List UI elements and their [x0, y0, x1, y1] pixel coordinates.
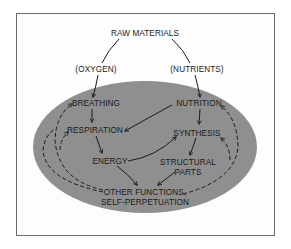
node-other-functions-line2: SELF-PERPETUATION [101, 198, 189, 207]
node-breathing: BREATHING [72, 99, 120, 108]
node-raw-materials: RAW MATERIALS [111, 29, 179, 38]
node-oxygen: (OXYGEN) [75, 65, 116, 74]
node-structural-line2: PARTS [174, 168, 201, 177]
node-nutrition: NUTRITION [176, 99, 221, 108]
node-other-functions-line1: OTHER FUNCTIONS, [104, 188, 187, 197]
arrow-raw-to-oxygen [102, 39, 119, 63]
node-respiration: RESPIRATION [67, 126, 123, 135]
node-energy: ENERGY [92, 157, 127, 166]
arrow-raw-to-nutrients [172, 39, 190, 63]
node-synthesis: SYNTHESIS [173, 129, 220, 138]
node-structural-line1: STRUCTURAL [160, 158, 216, 167]
node-nutrients: (NUTRIENTS) [170, 65, 223, 74]
